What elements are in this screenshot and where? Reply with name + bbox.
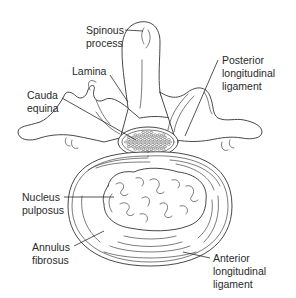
label-anterior-longitudinal-ligament: Anterior longitudinal ligament — [213, 252, 269, 290]
right-lamina-shape — [160, 88, 262, 142]
label-cauda-equina: Cauda equina — [27, 89, 61, 114]
label-nucleus-pulposus: Nucleus pulposus — [22, 191, 64, 216]
label-annulus-fibrosus: Annulus fibrosus — [32, 241, 73, 266]
label-spinous-process: Spinous process — [86, 24, 127, 49]
label-posterior-longitudinal-ligament: Posterior longitudinal ligament — [222, 54, 278, 92]
spine-diagram: Spinous process Lamina Cauda equina Post… — [0, 0, 296, 298]
intervertebral-disc — [68, 152, 232, 266]
label-lamina: Lamina — [72, 65, 107, 77]
